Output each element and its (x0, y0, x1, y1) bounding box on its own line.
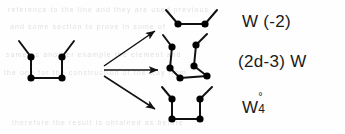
graph-node (58, 53, 65, 60)
label-2d-minus-3-w: (2d-3) W (238, 52, 307, 72)
degree-superscript: ° (258, 91, 263, 102)
graph-node (174, 20, 181, 27)
result-middle-edges (170, 45, 207, 78)
graph-node (168, 115, 175, 122)
graph-node (201, 20, 208, 27)
graph-node (196, 95, 203, 102)
result-bottom-edges (172, 99, 200, 119)
graph-node (196, 115, 203, 122)
graph-node (192, 41, 199, 48)
graph-node (166, 64, 173, 71)
figure-root: reference to the line and they are used … (0, 0, 345, 134)
graph-node (168, 43, 175, 50)
source-graph-edges (31, 57, 62, 78)
four-subscript: 4 (258, 103, 265, 115)
graph-node (203, 72, 210, 79)
label-w-base: W (242, 98, 258, 117)
expansion-arrows (104, 31, 158, 109)
result-bottom-graph (162, 87, 212, 123)
label-w-4-circ-affixes: °4 (258, 96, 267, 113)
graph-node (176, 74, 183, 81)
label-w-minus-2: W (-2) (242, 12, 291, 32)
graph-node (27, 53, 34, 60)
result-top-pendant-edges (166, 10, 217, 24)
graph-node (27, 74, 34, 81)
graph-edge (180, 76, 207, 78)
result-middle-graph (163, 34, 211, 82)
label-w-4-circ: W°4 (242, 96, 267, 118)
arrow-bottom (104, 76, 155, 109)
result-top-graph (166, 10, 217, 28)
graph-node (168, 95, 175, 102)
source-graph-pendant-edges (19, 41, 74, 57)
result-middle-nodes (166, 41, 210, 81)
graph-node (58, 74, 65, 81)
graph-node (190, 62, 197, 69)
source-graph (19, 41, 74, 82)
arrow-top (104, 31, 155, 66)
